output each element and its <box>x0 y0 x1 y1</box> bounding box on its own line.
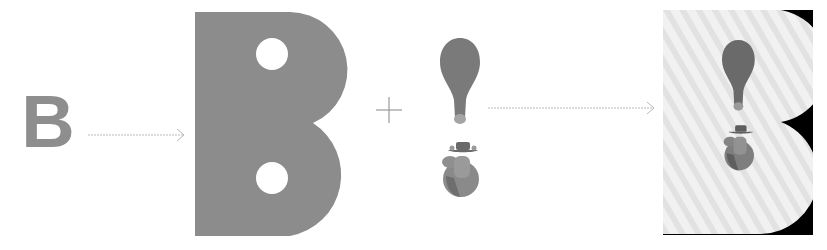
b-mask-shape <box>195 12 350 237</box>
dotted-arrow-1 <box>88 128 188 142</box>
exclamation-figure <box>440 38 480 228</box>
source-letter-b: B <box>18 92 78 152</box>
dotted-arrow-2 <box>488 101 660 115</box>
result-composite <box>663 10 813 235</box>
mascot-icon <box>442 142 479 197</box>
exclamation-drop-icon <box>440 38 480 121</box>
plus-icon <box>376 97 402 123</box>
